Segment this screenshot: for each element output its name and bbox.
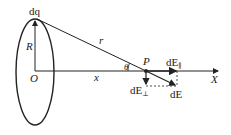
label-dE-parallel: dE∥ <box>166 56 181 70</box>
label-x: x <box>93 71 99 83</box>
label-theta: θ <box>124 62 129 72</box>
ring-field-diagram: dq R r O x θ P X dE∥ dE⊥ dE <box>0 0 231 135</box>
dE-vector <box>146 71 175 85</box>
label-dq: dq <box>29 5 41 17</box>
label-dE: dE <box>170 88 183 100</box>
label-R: R <box>25 40 33 52</box>
label-P: P <box>142 55 150 67</box>
label-O: O <box>30 72 38 84</box>
label-X: X <box>210 73 219 85</box>
label-r: r <box>99 34 104 46</box>
